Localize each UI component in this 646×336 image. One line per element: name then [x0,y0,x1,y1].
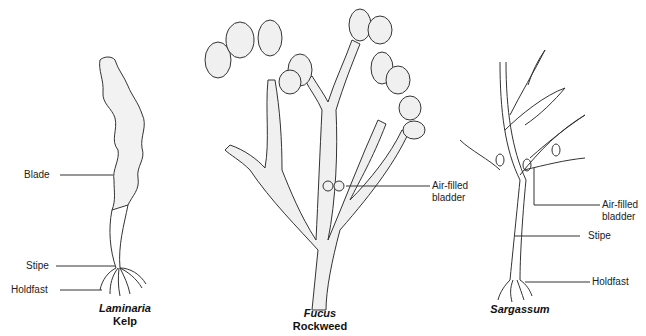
kelp-stipe [110,205,128,268]
kelp-genus: Laminaria [99,302,151,314]
sargassum-genus: Sargassum [490,303,549,315]
caption-sargassum: Sargassum [480,303,560,316]
rockweed-genus: Fucus [304,307,336,319]
caption-rockweed: Fucus Rockweed [280,307,360,333]
rockweed-common-name: Rockweed [293,320,347,332]
kelp-blade [100,57,145,210]
sargassum-body [460,50,585,302]
label-kelp-stipe: Stipe [26,260,49,272]
kelp-common-name: Kelp [113,315,137,327]
seaweed-illustrations [0,0,646,336]
label-blade: Blade [24,169,50,181]
kelp-holdfast [100,268,146,296]
label-sargassum-holdfast: Holdfast [592,276,629,288]
label-sargassum-stipe: Stipe [588,230,611,242]
caption-kelp: Laminaria Kelp [85,302,165,328]
rockweed-body [205,9,425,310]
label-kelp-holdfast: Holdfast [11,284,48,296]
label-rockweed-bladder: Air-filled bladder [432,180,468,204]
label-sargassum-bladder: Air-filled bladder [602,199,638,223]
